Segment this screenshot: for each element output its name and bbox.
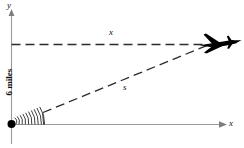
y-axis-label: y (7, 1, 11, 10)
airplane-icon (200, 34, 242, 54)
dashed-diagonal-line (43, 46, 207, 113)
diagram-canvas (0, 0, 244, 148)
radar-station-dot (8, 120, 16, 128)
x-axis-arrowhead (219, 121, 227, 128)
y-axis-arrowhead (9, 9, 15, 16)
horizontal-distance-label: x (109, 28, 113, 37)
radar-airplane-diagram: y x x s 6 miles (0, 0, 244, 148)
x-axis-label: x (229, 119, 233, 128)
vertical-distance-label: 6 miles (4, 54, 14, 110)
radar-wave-arcs (15, 107, 45, 125)
hypotenuse-label: s (123, 83, 127, 92)
